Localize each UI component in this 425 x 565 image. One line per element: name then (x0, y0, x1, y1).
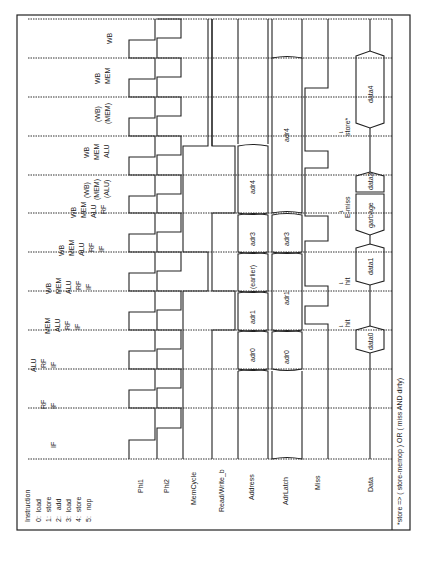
annotation-store-label: store* (344, 118, 351, 136)
timing-diagram-canvas (0, 0, 425, 565)
adrlatch-value: adr4 (283, 128, 290, 142)
signal-label-phi2: Phi2 (163, 479, 170, 493)
cycle-2-stage-1: RF (40, 400, 47, 409)
signal-label-memcycle: MemCycle (190, 472, 197, 505)
data-value: data0 (367, 332, 374, 350)
cycle-9-stage-2: MEM (93, 144, 100, 160)
cycle-9-stage-1: WB (83, 147, 90, 158)
annotation-store: ↓ (337, 131, 344, 135)
cycle-8-stage-3: (ALU) (103, 180, 110, 198)
annotation-hit-2: ↓ (337, 282, 344, 286)
cycle-6-stage-3: ALU (78, 242, 85, 256)
footnote: *store => ( store-memop ) OR ( miss AND … (396, 378, 403, 525)
annotation-emiss: ↓ (337, 210, 344, 214)
cycle-6-stage-1: WB (58, 245, 65, 256)
instruction-3: 3: load (65, 499, 72, 522)
address-value: (earlier) (249, 265, 256, 289)
signal-label-readwrite: Read/Write_b (218, 469, 225, 512)
cycle-4-stage-2: ALU (54, 318, 61, 332)
readwrite-waveform (212, 19, 235, 459)
cycle-5-stage-1: WB (45, 283, 52, 294)
cycle-1-stages: IF (50, 442, 57, 448)
instruction-1: 1: store (45, 497, 52, 522)
instruction-0: 0: load (35, 499, 42, 522)
data-value: data1 (367, 257, 374, 275)
annotation-hit-1: ↓ (337, 325, 344, 329)
cycle-4-stage-3: RF (64, 321, 71, 330)
cycle-12-stage-1: WB (106, 33, 113, 44)
adrlatch-value: adr3 (283, 232, 290, 246)
signal-label-adrlatch: AdrLatch (282, 477, 289, 505)
signal-label-address: Address (248, 474, 255, 500)
phi2-waveform (157, 19, 181, 459)
cycle-7-stage-4: RF (100, 205, 107, 214)
address-value: adr4 (249, 180, 256, 194)
data-value: data4 (367, 85, 374, 103)
cycle-2-stage-2: IF (50, 403, 57, 409)
cycle-6-stage-5: IF (98, 246, 105, 252)
address-value: adr0 (249, 348, 256, 362)
cycle-3-stage-3: IF (50, 362, 57, 368)
cycle-11-stage-1: WB (94, 73, 101, 84)
cycle-3-stage-2: RF (40, 359, 47, 368)
signal-label-miss: Miss (314, 476, 321, 490)
memcycle-waveform (183, 19, 208, 459)
cycle-10-stage-1: (WB) (94, 106, 101, 122)
cycle-4-stage-1: MEM (44, 318, 51, 334)
annotation-hit-1-label: hit (344, 320, 351, 327)
cycle-9-stage-3: ALU (103, 144, 110, 158)
adrlatch-value: adr1 (283, 291, 290, 305)
instruction-2: 2: add (55, 499, 62, 522)
annotation-hit-2-label: hit (344, 278, 351, 285)
cycle-6-stage-2: MEM (68, 240, 75, 256)
phi1-waveform (129, 19, 155, 459)
cycle-boundaries (28, 19, 392, 459)
address-value: adr1 (249, 310, 256, 324)
miss-waveform (305, 19, 328, 459)
signal-label-phi1: Phi1 (137, 479, 144, 493)
signal-label-data: Data (367, 477, 374, 492)
cycle-7-stage-2: MEM (80, 202, 87, 218)
cycle-7-stage-1: WB (70, 207, 77, 218)
annotation-emiss-label: E-miss (344, 197, 351, 218)
timing-diagram: IF RF IF ALU RF IF MEM ALU RF IF WB MEM … (0, 0, 425, 565)
cycle-8-stage-1: (WB) (83, 182, 90, 198)
cycle-4-stage-4: IF (74, 324, 81, 330)
cycle-10-stage-2: (MEM) (104, 103, 111, 124)
instruction-5: 5: nop (85, 499, 92, 522)
cycle-3-stage-1: ALU (30, 358, 37, 372)
instruction-header: Instruction (24, 490, 31, 522)
cycle-6-stage-4: RF (88, 243, 95, 252)
cycle-5-stage-5: IF (85, 284, 92, 290)
cycle-5-stage-4: RF (75, 281, 82, 290)
cycle-5-stage-2: MEM (55, 278, 62, 294)
cycle-8-stage-2: (MEM) (93, 179, 100, 200)
data-value: data3 (367, 172, 374, 190)
cycle-7-stage-3: ALU (90, 204, 97, 218)
cycle-11-stage-2: MEM (104, 68, 111, 84)
data-value: garbage (367, 202, 374, 228)
instruction-4: 4: store (75, 497, 82, 522)
cycle-5-stage-3: ALU (65, 280, 72, 294)
address-value: adr3 (249, 232, 256, 246)
diagram-frame (17, 15, 410, 530)
adrlatch-value: adr0 (283, 350, 290, 364)
